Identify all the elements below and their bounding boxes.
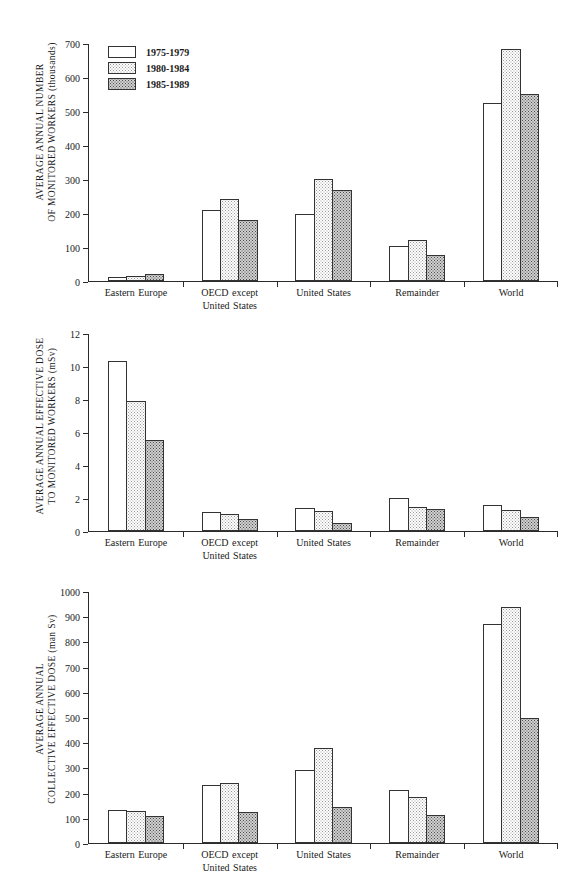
x-category-label: OECD exceptUnited States <box>183 849 277 874</box>
y-tick-0-1 <box>83 248 88 249</box>
bar <box>501 510 520 531</box>
chart-legend: 1975-19791980-19841985-1989 <box>108 46 189 90</box>
y-tick-label-0-2: 200 <box>65 209 80 220</box>
y-axis-title-text-1: AVERAGE ANNUAL EFFECTIVE DOSETO MONITORE… <box>34 312 58 540</box>
bar <box>314 748 333 843</box>
bar-group <box>370 334 464 531</box>
y-tick-label-2-10: 1000 <box>60 587 80 598</box>
y-tick-label-2-1: 100 <box>65 813 80 824</box>
bar-group <box>277 44 371 281</box>
y-tick-2-1 <box>83 819 88 820</box>
x-category-label: Remainder <box>370 537 464 562</box>
y-tick-label-2-2: 200 <box>65 788 80 799</box>
bar-group <box>89 334 183 531</box>
y-tick-1-2 <box>83 466 88 467</box>
y-tick-label-1-6: 12 <box>70 329 80 340</box>
y-tick-label-1-5: 10 <box>70 362 80 373</box>
bar <box>332 190 351 281</box>
x-category-labels-0: Eastern EuropeOECD exceptUnited StatesUn… <box>89 287 558 312</box>
bar <box>426 255 445 281</box>
bar-group <box>277 334 371 531</box>
legend-entry: 1985-1989 <box>108 78 189 90</box>
bar <box>238 519 257 531</box>
bar <box>220 199 239 281</box>
bar <box>483 624 502 843</box>
y-tick-label-0-0: 0 <box>75 277 80 288</box>
x-category-label: Remainder <box>370 849 464 874</box>
legend-swatch-light-stipple-rectangle <box>108 62 136 74</box>
y-tick-0-4 <box>83 146 88 147</box>
bar <box>426 509 445 531</box>
legend-entry: 1980-1984 <box>108 62 189 74</box>
y-tick-label-1-4: 8 <box>75 395 80 406</box>
y-tick-1-6 <box>83 334 88 335</box>
legend-label: 1985-1989 <box>146 79 189 90</box>
y-tick-2-3 <box>83 768 88 769</box>
x-axis-line-2 <box>88 843 558 844</box>
bar <box>389 246 408 281</box>
bar <box>220 514 239 531</box>
bar <box>238 812 257 843</box>
y-tick-label-2-0: 0 <box>75 839 80 850</box>
bar <box>202 512 221 531</box>
bar-group <box>89 592 183 843</box>
bar <box>408 797 427 843</box>
y-tick-label-1-1: 2 <box>75 494 80 505</box>
bar <box>501 607 520 843</box>
y-tick-label-2-5: 500 <box>65 713 80 724</box>
bar <box>389 790 408 843</box>
x-category-label: OECD exceptUnited States <box>183 287 277 312</box>
y-tick-1-3 <box>83 433 88 434</box>
chart-panel-effective-dose: AVERAGE ANNUAL EFFECTIVE DOSETO MONITORE… <box>0 318 574 568</box>
y-tick-2-8 <box>83 642 88 643</box>
y-tick-label-0-3: 300 <box>65 175 80 186</box>
bar-group <box>183 44 277 281</box>
y-tick-1-5 <box>83 367 88 368</box>
y-tick-label-2-4: 400 <box>65 738 80 749</box>
bar <box>126 811 145 843</box>
bar <box>202 785 221 843</box>
bar-group <box>370 592 464 843</box>
bar <box>520 517 539 531</box>
y-tick-label-0-4: 400 <box>65 141 80 152</box>
y-tick-0-6 <box>83 78 88 79</box>
y-tick-0-0 <box>83 282 88 283</box>
bar-group <box>464 44 558 281</box>
y-tick-0-5 <box>83 112 88 113</box>
x-category-label: United States <box>277 849 371 874</box>
y-tick-label-1-3: 6 <box>75 428 80 439</box>
x-axis-line-0 <box>88 281 558 282</box>
bar-groups-1 <box>89 334 558 531</box>
x-category-label: World <box>464 287 558 312</box>
y-tick-label-0-1: 100 <box>65 243 80 254</box>
x-axis-line-1 <box>88 531 558 532</box>
y-tick-1-0 <box>83 532 88 533</box>
legend-swatch-dark-stipple-rectangle <box>108 78 136 90</box>
bar-group <box>370 44 464 281</box>
chart-panel-collective-dose: AVERAGE ANNUALCOLLECTIVE EFFECTIVE DOSE … <box>0 572 574 890</box>
y-tick-label-1-0: 0 <box>75 527 80 538</box>
bar <box>238 220 257 281</box>
bar <box>295 770 314 843</box>
y-tick-2-9 <box>83 617 88 618</box>
bar <box>220 783 239 843</box>
bar <box>408 240 427 281</box>
x-category-label: Remainder <box>370 287 464 312</box>
bar <box>332 807 351 843</box>
bar <box>295 214 314 281</box>
bar-group <box>464 334 558 531</box>
x-category-labels-1: Eastern EuropeOECD exceptUnited StatesUn… <box>89 537 558 562</box>
bar <box>483 103 502 281</box>
bar <box>108 277 127 281</box>
y-tick-2-2 <box>83 794 88 795</box>
bar <box>145 816 164 843</box>
figure-page: AVERAGE ANNUAL NUMBEROF MONITORED WORKER… <box>0 0 574 893</box>
legend-label: 1980-1984 <box>146 63 189 74</box>
y-tick-label-0-6: 600 <box>65 73 80 84</box>
bar <box>483 505 502 531</box>
x-category-label: Eastern Europe <box>89 537 183 562</box>
x-category-label: Eastern Europe <box>89 849 183 874</box>
y-tick-label-2-3: 300 <box>65 763 80 774</box>
x-category-label: United States <box>277 287 371 312</box>
y-tick-label-2-9: 900 <box>65 612 80 623</box>
